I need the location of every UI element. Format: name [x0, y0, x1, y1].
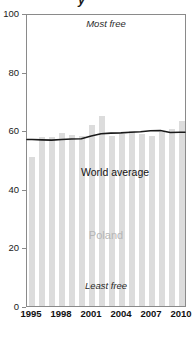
x-tick-label-2001: 2001 [80, 309, 101, 319]
x-tick-label-1998: 1998 [50, 309, 71, 319]
bar [149, 136, 155, 306]
bar [159, 132, 165, 306]
bar [69, 135, 75, 306]
bar [179, 121, 185, 306]
x-tick-label-1995: 1995 [20, 309, 41, 319]
bar-series-poland [27, 15, 185, 306]
annotation-most-free: Most free [86, 19, 126, 29]
x-tick-label-2007: 2007 [140, 309, 161, 319]
bar [29, 157, 35, 306]
bar [139, 134, 145, 306]
y-axis: 100 80 60 40 20 0 [0, 0, 26, 307]
bar [59, 133, 65, 306]
chart-figure: y 100 80 60 40 20 0 Most free Least free… [0, 0, 193, 341]
x-axis: 199519982001200420072010 [26, 309, 186, 329]
clipped-title-fragment: y [78, 0, 85, 6]
plot-area: Most free Least free Poland World averag… [26, 14, 186, 307]
y-tick-label-0: 0 [14, 302, 19, 312]
label-poland: Poland [89, 230, 123, 241]
y-tick-label-60: 60 [8, 126, 19, 136]
x-tick-label-2010: 2010 [170, 309, 191, 319]
y-tick-label-100: 100 [3, 9, 19, 19]
y-tick-label-80: 80 [8, 68, 19, 78]
bar [39, 137, 45, 306]
bar [49, 137, 55, 306]
bar [129, 131, 135, 306]
y-tick-label-20: 20 [8, 243, 19, 253]
bar [169, 129, 175, 306]
label-world-average: World average [81, 167, 149, 178]
y-tick-label-40: 40 [8, 185, 19, 195]
x-tick-label-2004: 2004 [110, 309, 131, 319]
bar [99, 116, 105, 306]
annotation-least-free: Least free [85, 281, 127, 291]
